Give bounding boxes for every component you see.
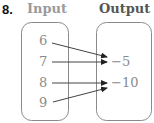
output-value: −10 — [111, 76, 138, 90]
input-value: 8 — [39, 76, 47, 90]
output-value: −5 — [111, 55, 130, 69]
input-value: 7 — [39, 55, 47, 69]
arrow-6-to-neg5 — [52, 43, 107, 57]
arrow-9-to-neg10 — [53, 88, 107, 102]
input-value: 6 — [39, 34, 47, 48]
mapping-diagram — [0, 0, 154, 123]
input-value: 9 — [39, 96, 47, 110]
output-set-box — [97, 23, 152, 121]
